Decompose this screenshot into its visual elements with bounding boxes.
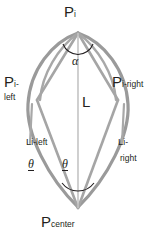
label-l-i-left: Li-left [26,132,47,148]
label-l-right-sub2: right [120,154,137,163]
label-alpha: α [72,55,78,67]
label-l-left-sub: i-left [31,137,47,147]
label-point-apex: Pi [64,4,76,20]
label-right-sub: i-right [122,79,143,89]
geometry-diagram: Pi α Pi- left Pi-right L Li-left Li- rig… [0,0,155,244]
label-center-length: L [82,94,90,109]
diagram-canvas [0,0,155,244]
label-theta-right: θ [62,158,68,171]
label-l-right-sub: i- [123,137,128,147]
label-left-sub: i- [14,79,19,89]
label-point-center: Pcenter [41,214,75,230]
label-apex-sub: i [74,9,76,19]
label-point-left: Pi- [4,74,19,90]
label-apex-main: P [64,3,74,20]
label-theta-left: θ [28,158,34,171]
label-l-i-right: Li- [118,132,128,148]
label-left-sub2: left [4,93,15,102]
label-right-main: P [112,73,122,90]
chord-right-to-center [78,100,118,208]
label-point-right: Pi-right [112,74,143,90]
label-left-main: P [4,73,14,90]
chord-left-to-center [37,100,78,208]
label-center-main: P [41,213,51,230]
label-center-sub: center [51,219,75,229]
